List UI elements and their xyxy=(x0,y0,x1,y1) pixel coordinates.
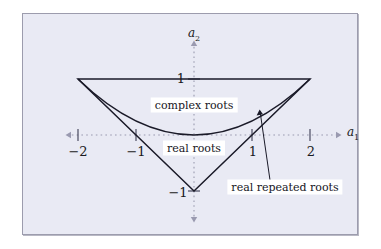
x-tick-label--1: −1 xyxy=(126,145,145,158)
annotation-real-repeated-roots: real repeated roots xyxy=(227,180,342,195)
y-axis-title-sub: 2 xyxy=(195,34,200,43)
x-axis-title: a1 xyxy=(347,126,359,141)
x-axis-arrow-right xyxy=(336,132,342,138)
x-axis-arrow-left xyxy=(66,132,72,138)
leader-arrow-head xyxy=(257,109,263,115)
x-tick-label-2: 2 xyxy=(307,145,315,158)
y-tick-label--1: −1 xyxy=(168,186,187,199)
x-axis-title-sub: 1 xyxy=(354,133,359,142)
figure-panel: −2 −1 1 2 1 −1 a2 a1 complex roots real … xyxy=(22,13,358,235)
y-axis-title: a2 xyxy=(188,27,200,42)
x-tick-label-1: 1 xyxy=(249,145,257,158)
x-tick-label--2: −2 xyxy=(68,145,87,158)
plot-canvas xyxy=(23,14,359,236)
annotation-complex-roots: complex roots xyxy=(151,98,238,113)
y-tick-label-1: 1 xyxy=(177,72,185,85)
y-axis-arrow-down xyxy=(191,217,197,223)
annotation-real-roots: real roots xyxy=(163,141,225,156)
